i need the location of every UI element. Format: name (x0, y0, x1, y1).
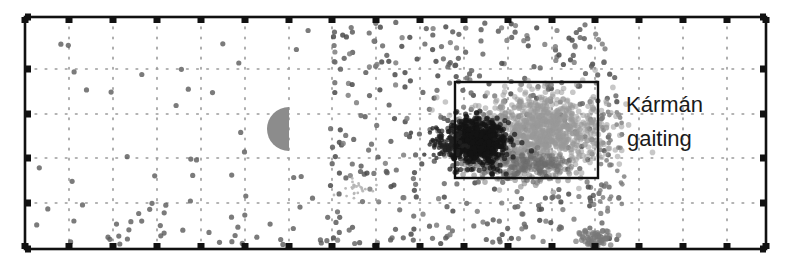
obstacle-half-disc (267, 107, 289, 151)
annotation-line-2: gaiting (627, 128, 703, 150)
annotation-label: Kármán gaiting (626, 94, 703, 150)
annotation-line-1: Kármán (626, 94, 703, 116)
data-points (34, 20, 655, 249)
